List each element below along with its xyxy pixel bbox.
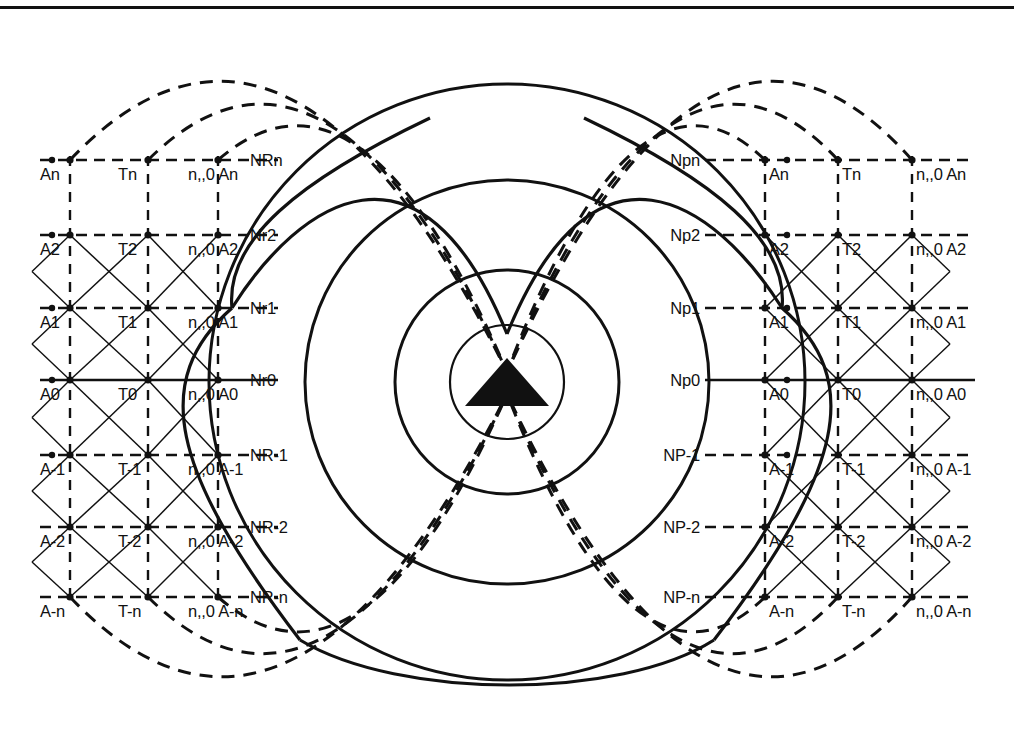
right-cell-label-2-1: T1 (842, 314, 861, 331)
left-cell-label-0-1: Tn (118, 166, 137, 183)
right-node-2-0 (761, 304, 768, 311)
left-cell-label-1-1: T2 (118, 241, 137, 258)
left-satellite-node-2 (49, 305, 55, 311)
right-node-6-0 (761, 593, 768, 600)
left-node-3-0 (66, 376, 73, 383)
right-node-4-0 (761, 451, 768, 458)
left-cell-label-2-1: T1 (118, 314, 137, 331)
right-satellite-node-0 (784, 157, 790, 163)
left-row-label-6: NR-n (250, 589, 288, 606)
left-diag-edge-b-3 (32, 418, 70, 456)
left-node-2-0 (66, 304, 73, 311)
left-row-label-1: Nr2 (250, 227, 276, 244)
left-cell-label-4-2: n,,0 A-1 (188, 461, 243, 478)
left-row-label-5: NR-2 (250, 519, 288, 536)
dashed-arc-top-right-2 (507, 126, 765, 372)
right-node-3-0 (761, 376, 768, 383)
left-diag-edge-b-4 (32, 491, 70, 527)
right-cell-label-0-2: n,,0 An (916, 166, 966, 183)
right-node-5-1 (834, 523, 841, 530)
left-node-6-1 (144, 593, 151, 600)
right-cell-label-6-1: T-n (842, 603, 865, 620)
right-node-6-1 (834, 593, 841, 600)
right-node-3-1 (834, 376, 841, 383)
left-row-label-3: Nr0 (250, 372, 276, 389)
left-node-5-1 (144, 523, 151, 530)
left-cell-label-1-0: A2 (40, 241, 60, 258)
left-cell-label-4-1: T-1 (118, 461, 141, 478)
left-cell-label-3-0: A0 (40, 386, 60, 403)
right-cell-label-1-1: T2 (842, 241, 861, 258)
diagonal-lattice-group (32, 235, 950, 597)
left-cell-label-4-0: A-1 (40, 461, 65, 478)
right-node-2-2 (908, 304, 915, 311)
left-node-2-1 (144, 304, 151, 311)
right-node-4-1 (834, 451, 841, 458)
right-diag-edge-b-2 (912, 344, 950, 380)
left-node-1-0 (66, 231, 73, 238)
left-satellite-node-4 (49, 452, 55, 458)
right-cell-label-6-0: A-n (769, 603, 794, 620)
left-node-1-1 (144, 231, 151, 238)
right-node-1-2 (908, 231, 915, 238)
left-cell-label-6-2: n,,0 A-n (188, 603, 243, 620)
right-node-0-1 (834, 156, 841, 163)
center-triangle (465, 358, 549, 406)
left-cell-label-6-1: T-n (118, 603, 141, 620)
right-node-0-2 (908, 156, 915, 163)
right-node-1-0 (761, 231, 768, 238)
left-node-0-1 (144, 156, 151, 163)
right-cell-label-1-0: A2 (769, 241, 789, 258)
left-node-0-0 (66, 156, 73, 163)
left-cell-label-0-2: n,,0 An (188, 166, 238, 183)
left-diag-edge-b-1 (32, 272, 70, 309)
right-row-label-6: NP-n (663, 589, 700, 606)
left-node-5-2 (214, 523, 221, 530)
right-cell-label-2-0: A1 (769, 314, 789, 331)
left-node-4-0 (66, 451, 73, 458)
left-cell-label-5-0: A-2 (40, 533, 65, 550)
right-diag-edge-b-1 (912, 272, 950, 309)
figure-canvas: NRnNr2Nr1Nr0NR-1NR-2NR-nNpnNp2Np1Np0NP-1… (0, 0, 1014, 753)
right-row-label-3: Np0 (670, 372, 700, 389)
right-node-2-1 (834, 304, 841, 311)
right-cell-label-5-0: A-2 (769, 533, 794, 550)
left-node-0-2 (214, 156, 221, 163)
right-node-5-0 (761, 523, 768, 530)
right-cell-label-1-2: n,,0 A2 (916, 241, 966, 258)
right-diag-edge-b-3 (912, 418, 950, 456)
diagram-svg (0, 0, 1014, 753)
left-cell-label-3-1: T0 (118, 386, 137, 403)
right-diag-edge-b-5 (912, 562, 950, 597)
right-cell-label-4-2: n,,0 A-1 (916, 461, 971, 478)
right-row-label-0: Npn (670, 152, 700, 169)
right-diag-edge-b-4 (912, 491, 950, 527)
left-cell-label-2-2: n,,0 A1 (188, 314, 238, 331)
left-cell-label-3-2: n,,0 A0 (188, 386, 238, 403)
left-diag-edge-b-5 (32, 562, 70, 597)
left-satellite-node-0 (49, 157, 55, 163)
right-satellite-node-1 (784, 232, 790, 238)
left-node-6-0 (66, 593, 73, 600)
right-row-label-2: Np1 (670, 300, 700, 317)
left-cell-label-2-0: A1 (40, 314, 60, 331)
left-node-1-2 (214, 231, 221, 238)
left-node-3-1 (144, 376, 151, 383)
right-cell-label-6-2: n,,0 A-n (916, 603, 971, 620)
right-node-4-2 (908, 451, 915, 458)
right-row-label-5: NP-2 (663, 519, 700, 536)
right-cell-label-3-0: A0 (769, 386, 789, 403)
right-node-6-2 (908, 593, 915, 600)
right-cell-label-0-1: Tn (842, 166, 861, 183)
center-triangle-group (465, 358, 549, 406)
right-satellite-node-3 (784, 377, 790, 383)
left-node-4-1 (144, 451, 151, 458)
left-node-6-2 (214, 593, 221, 600)
left-node-2-2 (214, 304, 221, 311)
right-row-label-1: Np2 (670, 227, 700, 244)
right-node-1-1 (834, 231, 841, 238)
right-cell-label-3-2: n,,0 A0 (916, 386, 966, 403)
left-cell-label-5-1: T-2 (118, 533, 141, 550)
right-satellite-node-2 (784, 305, 790, 311)
right-cell-label-5-1: T-2 (842, 533, 865, 550)
